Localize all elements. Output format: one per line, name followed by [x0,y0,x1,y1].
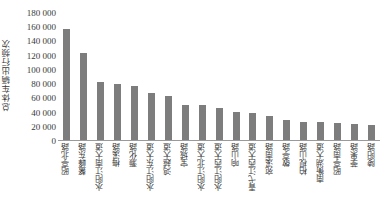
x-axis-tick-label: 水阳江东大道 [143,143,160,224]
bar-slot [109,13,126,140]
x-axis-tick-label: 荸果路 [346,143,363,224]
y-axis-tick-label: 160 000 [27,23,56,32]
x-axis-tick-label-text: 水阳江北大道 [198,143,206,191]
x-axis-tick-label: 南衡湖大道 [312,143,329,224]
bar-slot [295,13,312,140]
bar[interactable] [148,93,155,140]
x-axis-tick-label: 水阳江西大道 [211,143,228,224]
bar[interactable] [334,123,341,140]
bar-slot [58,13,75,140]
bar-slot [346,13,363,140]
bar[interactable] [131,86,138,140]
y-axis-tick-label: 80 000 [31,80,56,89]
bar[interactable] [80,53,87,140]
bar-slot [92,13,109,140]
x-axis-tick-label: 响山路 [228,143,245,224]
bar-slot [160,13,177,140]
x-axis-tick-label-text: 青弋江西大道 [249,143,257,191]
x-axis-tick-label: 水阳江北大道 [194,143,211,224]
bar[interactable] [97,82,104,140]
bar[interactable] [165,96,172,140]
x-axis-tick-label-text: 昭亭北路 [62,143,70,175]
y-axis-tick-label: 40 000 [31,108,56,117]
x-axis-tick-label-text: 昭亭南路 [334,143,342,175]
bars-layer [58,13,380,140]
x-axis-tick-label: 鳌峰东路 [75,143,92,224]
x-axis-tick-label-text: 水阳江南大道 [96,143,104,191]
y-axis-tick-label: 0 [52,137,57,146]
x-axis-tick-label-text: 宛溪南路 [266,143,274,175]
bar-slot [228,13,245,140]
y-axis-title-text: 总体车辆出行频次 [3,39,12,111]
bar-slot [194,13,211,140]
x-axis-tick-label-text: 灏化路 [130,143,138,167]
bar-slot [278,13,295,140]
x-axis-tick-labels: 昭亭北路鳌峰东路水阳江南大道梅溪路灏化路水阳江东大道鸿越大道宝城路水阳江北大道水… [58,143,380,224]
bar-slot [126,13,143,140]
x-axis-tick-label: 宛溪南路 [261,143,278,224]
x-axis-tick-label: 水阳江南大道 [92,143,109,224]
x-axis-tick-label-text: 宝城路 [181,143,189,167]
y-axis-tick-label: 20 000 [31,122,56,131]
x-axis-tick-label: 敬亭路 [278,143,295,224]
plot-area [58,13,380,141]
bar[interactable] [216,108,223,140]
x-axis-tick-label-text: 鸿越大道 [164,143,172,175]
bar-slot [312,13,329,140]
bar-slot [244,13,261,140]
x-axis-tick-label-text: 南衡湖大道 [317,143,325,183]
bar-slot [143,13,160,140]
x-axis-tick-label: 灏化路 [126,143,143,224]
x-axis-tick-label: 昭亭北路 [58,143,75,224]
y-axis-title: 总体车辆出行频次 [0,0,14,150]
x-axis-tick-label: 柏枧山路 [295,143,312,224]
bar[interactable] [199,105,206,140]
bar[interactable] [300,122,307,140]
bar[interactable] [182,105,189,140]
x-axis-tick-label-text: 响山路 [232,143,240,167]
bar-chart: 总体车辆出行频次 180 000160 000140 000120 000100… [0,0,383,224]
bar-slot [363,13,380,140]
bar[interactable] [368,125,375,140]
x-axis-tick-label-text: 柏枧山路 [300,143,308,175]
bar[interactable] [317,122,324,140]
x-axis-tick-label-text: 敬亭路 [283,143,291,167]
x-axis-tick-label-text: 水阳江东大道 [147,143,155,191]
bar[interactable] [283,120,290,140]
bar[interactable] [114,84,121,140]
y-axis-tick-label: 140 000 [27,37,56,46]
x-axis-tick-label: 昭亭南路 [329,143,346,224]
x-axis-tick-label: 宝城路 [177,143,194,224]
bar-slot [177,13,194,140]
x-axis-tick-label-text: 荸果路 [351,143,359,167]
y-axis-tick-label: 180 000 [27,9,56,18]
y-axis-tick-label: 100 000 [27,65,56,74]
bar-slot [75,13,92,140]
x-axis-tick-label-text: 鳌峰东路 [79,143,87,175]
x-axis-line [58,140,380,141]
bar[interactable] [63,29,70,140]
x-axis-tick-label: 鸿越大道 [160,143,177,224]
x-axis-tick-label: 梅溪路 [109,143,126,224]
bar[interactable] [351,124,358,140]
bar[interactable] [249,113,256,140]
x-axis-tick-label-text: 水阳江西大道 [215,143,223,191]
bar[interactable] [233,112,240,140]
x-axis-tick-label-text: 梅溪路 [113,143,121,167]
y-axis-tick-labels: 180 000160 000140 000120 000100 00080 00… [14,13,58,141]
x-axis-tick-label: 青弋江西大道 [244,143,261,224]
x-axis-tick-label: 陵阳路 [363,143,380,224]
bar[interactable] [266,116,273,140]
bar-slot [329,13,346,140]
y-axis-tick-label: 120 000 [27,51,56,60]
x-axis-tick-label-text: 陵阳路 [368,143,376,167]
bar-slot [211,13,228,140]
y-axis-tick-label: 60 000 [31,94,56,103]
bar-slot [261,13,278,140]
